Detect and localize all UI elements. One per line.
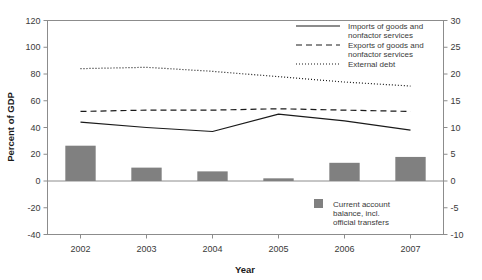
bar [65,146,95,181]
bar [263,178,293,181]
y-axis-left-tick-label: 100 [25,42,40,52]
legend-label-imports-line2: nonfactor services [348,31,413,40]
x-axis-tick-label: 2006 [334,244,354,254]
y-axis-left-tick-label: 120 [25,16,40,26]
y-axis-right-tick-label: 20 [451,69,461,79]
y-axis-left-tick-label: 40 [30,123,40,133]
y-axis-left-tick-label: -20 [27,203,40,213]
y-axis-right-tick-label: -5 [451,203,459,213]
y-axis-left-tick-label: 80 [30,69,40,79]
y-axis-right: 302520151050-5-10 [444,16,464,240]
bar [329,163,359,181]
legend-label-current-account-line3: official transfers [333,218,389,227]
legend-swatch-current-account [314,199,323,208]
y-axis-right-tick-label: -10 [451,230,464,240]
legend-label-exports-line2: nonfactor services [348,50,413,59]
x-axis-tick-label: 2004 [202,244,222,254]
y-axis-left-tick-label: -40 [27,230,40,240]
y-axis-left-tick-label: 20 [30,149,40,159]
x-axis-tick-label: 2003 [136,244,156,254]
y-axis-right-tick-label: 0 [451,176,456,186]
legend-label-current-account-line2: balance, incl. [333,209,380,218]
y-axis-left-tick-label: 0 [35,176,40,186]
legend-label-imports-line1: Imports of goods and [348,22,423,31]
y-axis-title: Percent of GDP [5,91,16,161]
legend-label-current-account-line1: Current account [333,200,391,209]
bar [197,171,227,181]
x-axis-tick-label: 2007 [400,244,420,254]
y-axis-right-tick-label: 25 [451,42,461,52]
bar [131,168,161,181]
legend-label-external-debt: External debt [348,60,396,69]
y-axis-left: 120100806040200-20-40 [25,16,47,240]
y-axis-right-tick-label: 30 [451,16,461,26]
y-axis-right-tick-label: 15 [451,96,461,106]
y-axis-left-tick-label: 60 [30,96,40,106]
economic-indicators-chart: 120100806040200-20-40 302520151050-5-10 … [0,0,482,280]
legend-label-exports-line1: Exports of goods and [348,41,424,50]
x-axis-title: Year [235,264,255,275]
x-axis-tick-label: 2002 [70,244,90,254]
x-axis-tick-label: 2005 [268,244,288,254]
bar [395,157,425,181]
y-axis-right-tick-label: 5 [451,149,456,159]
y-axis-right-tick-label: 10 [451,123,461,133]
x-axis: 200220032004200520062007 [70,235,420,254]
chart-container: 120100806040200-20-40 302520151050-5-10 … [0,0,482,280]
